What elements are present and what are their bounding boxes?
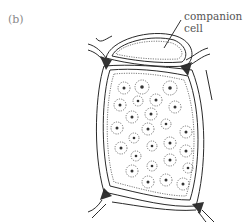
phloem-diagram [0,0,249,222]
companion-cell [106,33,192,66]
wall-junctions [100,56,204,214]
plastids [111,80,193,190]
sieve-tube-element [96,65,203,206]
